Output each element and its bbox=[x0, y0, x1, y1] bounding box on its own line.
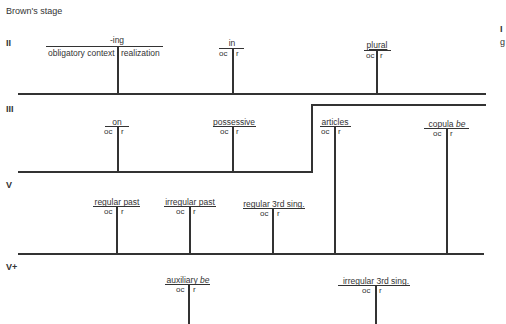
possessive-oc-label: oc bbox=[220, 127, 228, 136]
copula-r-label: r bbox=[450, 129, 453, 138]
irregular-past-r-label: r bbox=[193, 207, 196, 216]
morpheme-ing-label: -ing bbox=[110, 35, 124, 45]
edge-text-2: g bbox=[500, 37, 505, 47]
morpheme-plural-label: plural bbox=[367, 40, 388, 50]
morpheme-regular-3rd-stem bbox=[272, 208, 274, 254]
irregular-3rd-r-label: r bbox=[379, 286, 382, 295]
regular-3rd-oc-label: oc bbox=[260, 209, 268, 218]
edge-text-1: I bbox=[500, 24, 503, 34]
stage-label-iii: III bbox=[6, 104, 14, 114]
irregular-3rd-oc-label: oc bbox=[362, 286, 370, 295]
morpheme-in-stem bbox=[232, 48, 234, 94]
articles-oc-label: oc bbox=[321, 127, 329, 136]
auxiliary-oc-label: oc bbox=[176, 285, 184, 294]
plural-r-label: r bbox=[380, 51, 383, 60]
morpheme-possessive-stem bbox=[232, 126, 234, 172]
plural-oc-label: oc bbox=[366, 51, 374, 60]
in-oc-label: oc bbox=[219, 49, 227, 58]
articles-r-label: r bbox=[338, 127, 341, 136]
stage-v-baseline bbox=[18, 253, 484, 255]
ing-r-label: realization bbox=[121, 48, 160, 58]
regular-3rd-r-label: r bbox=[277, 209, 280, 218]
in-r-label: r bbox=[236, 49, 239, 58]
stage-iii-upper-line bbox=[311, 104, 486, 106]
morpheme-auxiliary-stem bbox=[188, 284, 190, 324]
morpheme-irregular-3rd-stem bbox=[375, 285, 377, 324]
morpheme-regular-past-stem bbox=[116, 206, 118, 254]
possessive-r-label: r bbox=[236, 127, 239, 136]
on-r-label: r bbox=[121, 127, 124, 136]
morpheme-irregular-3rd-bar bbox=[338, 285, 410, 286]
morpheme-regular-3rd-bar bbox=[243, 208, 305, 209]
morpheme-ing-stem bbox=[117, 47, 119, 94]
morpheme-irregular-past-stem bbox=[189, 206, 191, 254]
morpheme-articles-stem bbox=[334, 126, 336, 254]
morpheme-plural-stem bbox=[376, 50, 378, 94]
stage-ii-baseline bbox=[18, 93, 486, 95]
stage-label-v: V bbox=[6, 180, 12, 190]
stage-iii-baseline bbox=[18, 171, 312, 173]
diagram-title: Brown's stage bbox=[6, 6, 62, 16]
morpheme-in-label: in bbox=[229, 38, 236, 48]
copula-oc-label: oc bbox=[433, 129, 441, 138]
regular-past-oc-label: oc bbox=[104, 207, 112, 216]
ing-oc-label: obligatory context bbox=[48, 48, 115, 58]
on-oc-label: oc bbox=[104, 127, 112, 136]
stage-iii-step bbox=[311, 104, 313, 173]
irregular-past-oc-label: oc bbox=[176, 207, 184, 216]
morpheme-on-stem bbox=[117, 126, 119, 172]
morpheme-ing-bar bbox=[46, 46, 163, 47]
morpheme-copula-stem bbox=[446, 128, 448, 254]
stage-label-v-plus: V+ bbox=[6, 262, 17, 272]
stage-label-ii: II bbox=[6, 38, 11, 48]
regular-past-r-label: r bbox=[121, 207, 124, 216]
auxiliary-r-label: r bbox=[193, 285, 196, 294]
